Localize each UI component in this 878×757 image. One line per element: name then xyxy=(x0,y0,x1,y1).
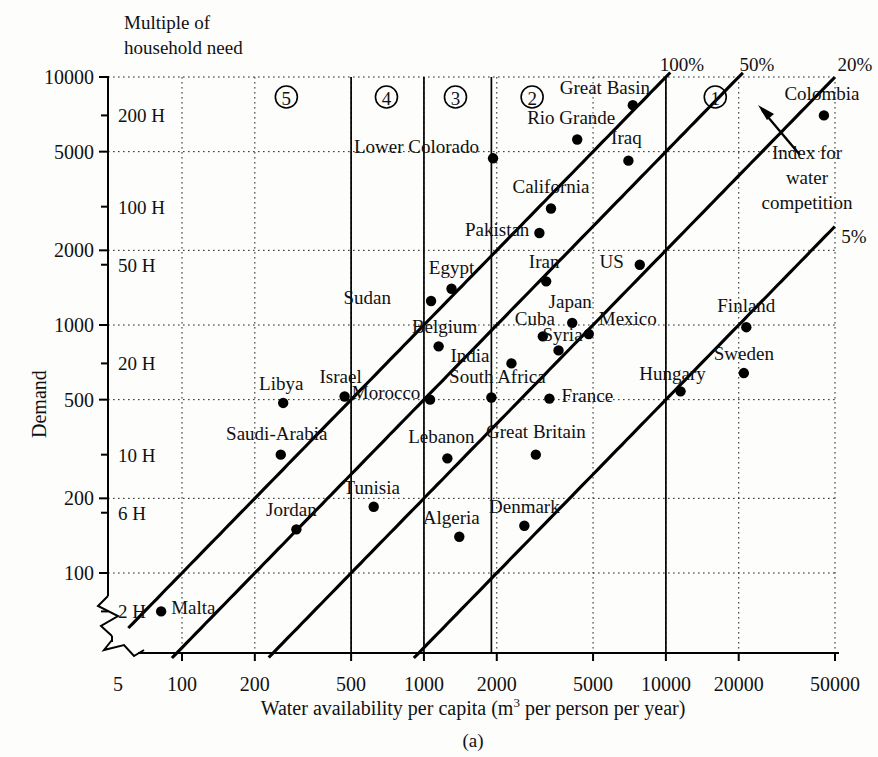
x-axis-title: Water availability per capita (m3 per pe… xyxy=(261,696,686,718)
data-point-sweden xyxy=(739,368,749,378)
index-annotation-line3: competition xyxy=(762,193,853,212)
zone-marker-label-4: 4 xyxy=(382,89,392,108)
competition-line-label: 5% xyxy=(841,227,866,246)
point-label-egypt: Egypt xyxy=(429,257,474,276)
data-point-belgium xyxy=(433,341,443,351)
point-label-sudan: Sudan xyxy=(344,287,392,306)
x-tick-label: 10000 xyxy=(641,674,691,694)
figure-label: (a) xyxy=(462,731,483,750)
index-annotation-line1: Index for xyxy=(772,143,842,162)
index-annotation-line2: water xyxy=(786,168,828,187)
point-label-south-africa: South Africa xyxy=(449,366,546,385)
y-tick-label: 100 xyxy=(64,563,94,583)
household-multiple-label: 200 H xyxy=(118,106,165,125)
household-multiple-label: 2 H xyxy=(118,602,146,621)
point-label-japan: Japan xyxy=(549,291,592,310)
y-tick-label: 10000 xyxy=(44,67,94,87)
zone-marker-label-5: 5 xyxy=(282,89,292,108)
point-label-lebanon: Lebanon xyxy=(408,427,474,446)
x-tick-label: 100 xyxy=(167,674,197,694)
data-point-lebanon xyxy=(442,453,452,463)
point-label-great-basin: Great Basin xyxy=(560,78,650,97)
competition-line-label: 50% xyxy=(740,55,775,74)
competition-line-label: 100% xyxy=(660,55,704,74)
x-tick-label: 2000 xyxy=(477,674,517,694)
household-multiple-label: 20 H xyxy=(118,354,155,373)
household-multiple-label: 100 H xyxy=(118,197,165,216)
data-point-us xyxy=(635,260,645,270)
data-point-tunisia xyxy=(369,502,379,512)
point-label-colombia: Colombia xyxy=(784,84,859,103)
point-label-great-britain: Great Britain xyxy=(486,421,586,440)
point-label-lower-colorado: Lower Colorado xyxy=(354,137,479,156)
header-note-line1: Multiple of xyxy=(124,13,210,32)
y-axis-title: Demand xyxy=(28,370,51,438)
data-point-denmark xyxy=(519,521,529,531)
data-point-finland xyxy=(741,322,751,332)
y-tick-label: 200 xyxy=(64,488,94,508)
header-note-line2: household need xyxy=(124,38,243,57)
index-arrow-head xyxy=(758,105,774,120)
point-label-algeria: Algeria xyxy=(423,507,480,526)
data-point-libya xyxy=(278,398,288,408)
point-label-malta: Malta xyxy=(171,598,215,617)
point-label-syria: Syria xyxy=(542,325,582,344)
data-point-rio-grande xyxy=(572,134,582,144)
point-label-iran: Iran xyxy=(529,252,560,271)
point-label-pakistan: Pakistan xyxy=(465,219,529,238)
data-point-iraq xyxy=(623,155,633,165)
y-tick-label: 5000 xyxy=(54,142,94,162)
point-label-tunisia: Tunisia xyxy=(344,477,400,496)
point-label-saudi-arabia: Saudi-Arabia xyxy=(226,423,327,442)
point-label-rio-grande: Rio Grande xyxy=(527,108,615,127)
point-label-morocco: Morocco xyxy=(352,382,421,401)
point-label-denmark: Denmark xyxy=(489,496,560,515)
figure-a: 100200500100020005000100002 H6 H10 H20 H… xyxy=(0,0,878,757)
zone-marker-label-3: 3 xyxy=(451,89,461,108)
data-point-egypt xyxy=(446,284,456,294)
data-point-pakistan xyxy=(534,228,544,238)
point-label-mexico: Mexico xyxy=(599,308,657,327)
household-multiple-label: 6 H xyxy=(118,503,146,522)
y-tick-label: 1000 xyxy=(54,315,94,335)
x-tick-label: 200 xyxy=(240,674,270,694)
data-point-jordan xyxy=(291,524,301,534)
point-label-california: California xyxy=(512,177,589,196)
data-point-malta xyxy=(156,606,166,616)
x-axis-title-pre: Water availability per capita (m xyxy=(261,697,514,719)
point-label-iraq: Iraq xyxy=(611,127,642,146)
data-point-saudi-arabia xyxy=(276,449,286,459)
data-point-great-basin xyxy=(628,100,638,110)
zone-marker-label-2: 2 xyxy=(527,89,537,108)
data-point-lower-colorado xyxy=(488,153,498,163)
data-point-algeria xyxy=(454,532,464,542)
data-point-iran xyxy=(541,276,551,286)
data-point-great-britain xyxy=(531,449,541,459)
point-label-france: France xyxy=(561,385,613,404)
x-axis-break-mark xyxy=(104,640,144,656)
x-tick-label: 20000 xyxy=(714,674,764,694)
point-label-india: India xyxy=(450,346,489,365)
data-point-sudan xyxy=(426,296,436,306)
competition-line-label: 20% xyxy=(838,55,873,74)
point-label-belgium: Belgium xyxy=(412,317,477,336)
data-point-colombia xyxy=(819,110,829,120)
data-point-israel xyxy=(339,391,349,401)
point-label-finland: Finland xyxy=(717,296,775,315)
y-tick-label: 2000 xyxy=(54,240,94,260)
point-label-sweden: Sweden xyxy=(714,344,774,363)
y-axis-break-mark xyxy=(98,596,118,636)
data-point-france xyxy=(544,393,554,403)
zone-marker-label-1: 1 xyxy=(711,89,721,108)
point-label-us: US xyxy=(599,251,623,270)
point-label-jordan: Jordan xyxy=(266,500,317,519)
data-point-mexico xyxy=(584,329,594,339)
point-label-libya: Libya xyxy=(259,373,303,392)
x-tick-label: 5000 xyxy=(573,674,613,694)
data-point-south-africa xyxy=(486,392,496,402)
household-multiple-label: 10 H xyxy=(118,445,155,464)
data-point-california xyxy=(546,203,556,213)
x-tick-label: 5 xyxy=(113,674,123,694)
y-tick-label: 500 xyxy=(64,390,94,410)
household-multiple-label: 50 H xyxy=(118,255,155,274)
